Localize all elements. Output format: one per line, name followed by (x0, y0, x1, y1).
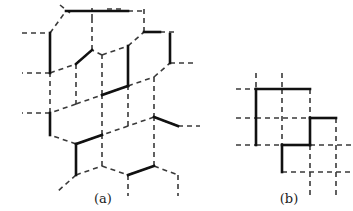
lattice-figure: (a) (b) (0, 0, 353, 211)
panel-b-label: (b) (272, 192, 306, 205)
lattice-edge-dashed-a-48 (154, 166, 178, 175)
lattice-edge-solid-a-4 (102, 86, 128, 95)
lattice-edge-solid-a-8 (76, 135, 102, 144)
lattice-edge-dashed-a-21 (102, 46, 128, 55)
lattice-edge-solid-a-2 (76, 50, 92, 64)
panel-b-dashed-lattice-edges (236, 73, 352, 196)
lattice-edge-dashed-a-33 (128, 117, 154, 126)
lattice-edge-dashed-a-35 (102, 126, 128, 135)
lattice-edge-dashed-a-20 (92, 50, 102, 55)
lattice-edge-solid-a-11 (154, 117, 178, 126)
lattice-edge-dashed-a-42 (76, 166, 102, 175)
lattice-canvas (0, 0, 353, 211)
lattice-edge-dashed-a-29 (154, 63, 170, 77)
lattice-edge-solid-a-10 (128, 166, 154, 175)
lattice-edge-dashed-a-38 (50, 135, 76, 144)
lattice-edge-dashed-a-1 (50, 11, 66, 33)
lattice-edge-dashed-a-10 (50, 64, 76, 73)
lattice-edge-dashed-a-22 (128, 32, 144, 46)
lattice-edge-dashed-a-41 (58, 175, 76, 191)
panel-a-solid-matching-edges (50, 11, 178, 175)
lattice-edge-dashed-a-15 (50, 104, 76, 113)
panel-b-solid-contour-edges (256, 89, 336, 172)
lattice-edge-dashed-a-44 (102, 166, 128, 175)
lattice-edge-dashed-a-28 (128, 77, 154, 86)
panel-a-label: (a) (86, 192, 120, 205)
lattice-edge-dashed-a-18 (76, 95, 102, 104)
